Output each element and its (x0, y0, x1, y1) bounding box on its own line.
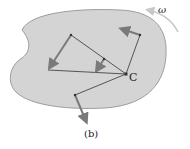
point-upper-left (70, 34, 72, 36)
instantaneous-center-point (125, 73, 128, 76)
point-lower (74, 94, 76, 96)
point-upper-right (139, 34, 141, 36)
center-label: C (129, 71, 137, 84)
point-middle (103, 58, 105, 60)
figure-caption: (b) (84, 128, 98, 139)
rigid-body-shape (10, 10, 166, 109)
rigid-body-diagram: ω C (b) (0, 0, 190, 149)
omega-label: ω (158, 4, 166, 15)
